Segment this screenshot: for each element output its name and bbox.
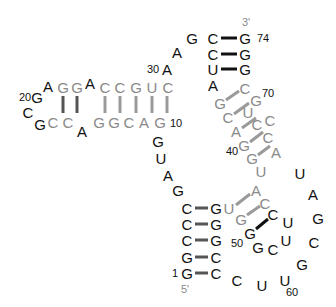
nucleotide: U xyxy=(256,163,267,180)
nucleotide: G xyxy=(34,116,46,133)
nucleotide: A xyxy=(308,186,318,203)
base-pair-bond xyxy=(258,146,270,155)
position-number: 60 xyxy=(286,286,298,298)
nucleotide: U xyxy=(283,214,294,231)
base-pair-bond xyxy=(226,91,239,100)
nucleotide: C xyxy=(268,241,279,258)
base-pair-bond xyxy=(236,194,250,205)
nucleotide: G xyxy=(93,114,105,131)
nucleotide: G xyxy=(130,79,142,96)
rna-structure-diagram: GGCCCGAUGGACGGACCGCGAGGACCGUCAAGCCUAGCAG… xyxy=(0,0,336,307)
nucleotide: G xyxy=(252,239,264,256)
nucleotide: A xyxy=(271,144,281,161)
nucleotide: G xyxy=(210,200,222,217)
nucleotide: C xyxy=(232,272,243,289)
nucleotide: G xyxy=(181,249,193,266)
nucleotide: C xyxy=(182,232,193,249)
rna-secondary-structure: GGCCCGAUGGACGGACCGCGAGGACCGUCAAGCCUAGCAG… xyxy=(0,0,336,307)
nucleotide: C xyxy=(100,79,111,96)
nucleotide: C xyxy=(211,265,222,282)
nucleotide: A xyxy=(77,123,87,140)
nucleotide: G xyxy=(296,256,308,273)
nucleotide: U xyxy=(147,79,158,96)
nucleotide: G xyxy=(57,79,69,96)
three-prime-end-label: 3' xyxy=(242,16,250,28)
nucleotide: G xyxy=(210,216,222,233)
position-number: 1 xyxy=(172,267,178,279)
nucleotide: U xyxy=(224,200,235,217)
position-number: 50 xyxy=(231,237,243,249)
nucleotide: G xyxy=(152,133,164,150)
nucleotide: G xyxy=(312,210,324,227)
nucleotide: C xyxy=(263,129,274,146)
nucleotide: C xyxy=(163,79,174,96)
nucleotide: A xyxy=(163,167,173,184)
nucleotide: G xyxy=(250,92,262,109)
position-number: 40 xyxy=(226,145,238,157)
nucleotide: U xyxy=(208,61,219,78)
nucleotide: C xyxy=(265,112,276,129)
nucleotide: G xyxy=(239,30,251,47)
nucleotide: C xyxy=(268,206,279,223)
nucleotide: C xyxy=(211,249,222,266)
base-pair-bond xyxy=(247,206,260,215)
nucleotide: C xyxy=(115,79,126,96)
nucleotide: G xyxy=(181,265,193,282)
position-number: 10 xyxy=(170,117,182,129)
nucleotide: A xyxy=(172,44,182,61)
nucleotide: G xyxy=(239,46,251,63)
nucleotide: G xyxy=(210,232,222,249)
nucleotide: G xyxy=(71,79,83,96)
nucleotide: A xyxy=(43,78,53,95)
nucleotide: A xyxy=(139,114,149,131)
base-pair-bond xyxy=(256,219,268,229)
nucleotide: A xyxy=(162,61,172,78)
nucleotide: C xyxy=(309,234,320,251)
nucleotides: GGCCCGAUGGACGGACCGCGAGGACCGUCAAGCCUAGCAG… xyxy=(23,30,324,294)
five-prime-end-label: 5' xyxy=(181,283,189,295)
nucleotide: C xyxy=(182,216,193,233)
position-number: 74 xyxy=(257,32,269,44)
nucleotide: U xyxy=(257,277,268,294)
nucleotide: G xyxy=(186,30,198,47)
nucleotide: C xyxy=(23,104,34,121)
nucleotide: C xyxy=(208,30,219,47)
nucleotide: C xyxy=(124,114,135,131)
nucleotide: U xyxy=(295,165,306,182)
nucleotide: A xyxy=(208,77,218,94)
nucleotide: G xyxy=(239,61,251,78)
nucleotide: A xyxy=(85,75,95,92)
nucleotide: C xyxy=(63,114,74,131)
position-number: 70 xyxy=(262,87,274,99)
nucleotide: G xyxy=(108,114,120,131)
position-number: 20 xyxy=(19,91,31,103)
nucleotide: U xyxy=(281,232,292,249)
nucleotide: G xyxy=(31,89,43,106)
nucleotide: G xyxy=(172,182,184,199)
nucleotide: C xyxy=(240,80,251,97)
nucleotide: C xyxy=(48,114,59,131)
nucleotide: U xyxy=(156,150,167,167)
nucleotide: G xyxy=(154,114,166,131)
nucleotide: C xyxy=(182,200,193,217)
position-number: 30 xyxy=(147,63,159,75)
base-pair-bond xyxy=(250,132,263,142)
